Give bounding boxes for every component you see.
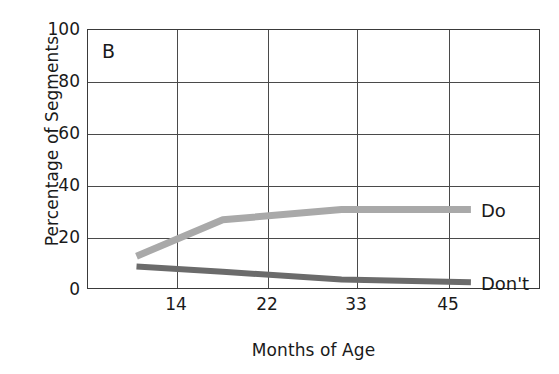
series-label-do: Do xyxy=(481,202,506,220)
x-tick-label: 45 xyxy=(418,296,478,313)
x-tick-label: 33 xyxy=(326,296,386,313)
series-layer xyxy=(88,30,541,290)
y-tick-label: 20 xyxy=(18,229,80,246)
chart-figure: Percentage of Segments 0 20 40 60 80 100… xyxy=(0,0,559,374)
x-tick-label: 22 xyxy=(237,296,297,313)
y-tick-label: 100 xyxy=(18,21,80,38)
series-line-do xyxy=(137,209,471,256)
y-tick-label: 60 xyxy=(18,125,80,142)
series-label-dont: Don't xyxy=(481,275,529,293)
y-axis-tick-labels: 0 20 40 60 80 100 xyxy=(12,0,80,374)
y-tick-label: 40 xyxy=(18,177,80,194)
x-tick-label: 14 xyxy=(146,296,206,313)
x-axis-title: Months of Age xyxy=(87,340,540,360)
y-tick-label: 0 xyxy=(18,281,80,298)
series-line-dont xyxy=(137,267,471,283)
plot-area: B Do Don't xyxy=(87,29,540,289)
y-tick-label: 80 xyxy=(18,73,80,90)
